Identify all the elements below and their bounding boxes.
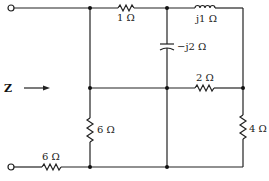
node	[241, 86, 245, 90]
node	[88, 86, 92, 90]
label-4ohm: 4 Ω	[249, 123, 267, 134]
label-2ohm: 2 Ω	[196, 72, 214, 83]
resistor-2ohm	[195, 85, 214, 91]
node	[165, 165, 169, 169]
resistor-1ohm	[118, 5, 134, 11]
label-j1: j1 Ω	[195, 13, 217, 24]
node	[165, 86, 169, 90]
terminal-top	[8, 5, 14, 11]
arrow-head-icon	[43, 86, 50, 91]
resistor-6ohm-vertical	[87, 118, 93, 142]
label-minus-j2: −j2 Ω	[177, 41, 206, 52]
resistor-6ohm-horizontal	[42, 164, 61, 170]
inductor-j1	[195, 6, 215, 9]
label-6ohm-horizontal: 6 Ω	[42, 151, 60, 162]
terminal-bottom	[8, 164, 14, 170]
node	[165, 6, 169, 10]
label-1ohm: 1 Ω	[117, 12, 135, 23]
node	[88, 6, 92, 10]
circuit-diagram: 1 Ω j1 Ω −j2 Ω 2 Ω 4 Ω 6 Ω 6 Ω Z	[0, 0, 269, 181]
label-6ohm-vertical: 6 Ω	[97, 124, 115, 135]
resistor-4ohm	[240, 115, 246, 139]
impedance-label: Z	[4, 82, 12, 95]
node	[88, 165, 92, 169]
